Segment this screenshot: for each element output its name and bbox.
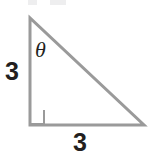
right-angle-square-icon (30, 110, 44, 124)
leg-left-length-label: 3 (5, 59, 18, 84)
right-triangle-figure: 3 3 θ (0, 0, 156, 158)
angle-theta-label: θ (35, 39, 46, 61)
leg-bottom-length-label: 3 (73, 130, 86, 155)
triangle-outline (30, 18, 144, 125)
